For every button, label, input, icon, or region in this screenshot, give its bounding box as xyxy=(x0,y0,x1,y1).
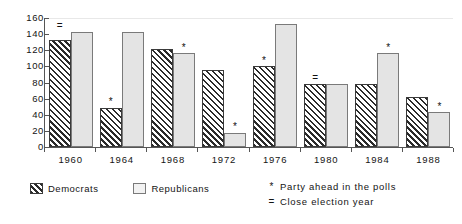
bar-republicans xyxy=(173,53,195,147)
bar-republicans xyxy=(275,24,297,147)
x-tick-label: 1988 xyxy=(398,154,458,165)
bar-democrats xyxy=(151,49,173,147)
note-row-poll-leader: * Party ahead in the polls xyxy=(268,181,396,196)
legend-label-republicans: Republicans xyxy=(151,183,209,194)
bar-democrats xyxy=(49,40,71,147)
bar-democrats xyxy=(304,84,326,147)
bar-democrats xyxy=(253,66,275,147)
bar-group xyxy=(355,18,399,147)
poll-leader-marker: * xyxy=(242,56,286,66)
chart-legend: Democrats Republicans xyxy=(30,183,209,194)
y-tick-label: 60 xyxy=(0,93,44,105)
y-tick-label: 40 xyxy=(0,109,44,121)
x-tick-mark xyxy=(95,148,96,152)
bar-republicans xyxy=(122,32,144,147)
x-tick-mark xyxy=(402,148,403,152)
legend-swatch-republicans xyxy=(133,183,146,194)
bar-group xyxy=(49,18,93,147)
y-tick-label: 80 xyxy=(0,77,44,89)
legend-item-democrats: Democrats xyxy=(30,183,98,194)
x-tick-mark xyxy=(351,148,352,152)
poll-leader-marker: * xyxy=(213,122,257,132)
x-tick-mark xyxy=(44,148,45,152)
bar-republicans xyxy=(326,84,348,147)
x-tick-mark xyxy=(249,148,250,152)
x-tick-mark xyxy=(197,148,198,152)
bar-group xyxy=(253,18,297,147)
y-tick-label: 120 xyxy=(0,44,44,56)
bar-republicans xyxy=(428,112,450,147)
x-tick-mark xyxy=(453,148,454,152)
equals-icon: = xyxy=(268,196,275,207)
poll-leader-marker: * xyxy=(162,43,206,53)
note-row-close-election: = Close election year xyxy=(268,196,396,211)
bar-republicans xyxy=(224,133,246,148)
note-text-poll-leader: Party ahead in the polls xyxy=(280,181,396,192)
bar-group xyxy=(100,18,144,147)
bar-democrats xyxy=(100,108,122,148)
asterisk-icon: * xyxy=(268,181,275,192)
y-tick-mark xyxy=(45,147,49,148)
poll-leader-marker: * xyxy=(417,102,461,112)
x-tick-mark xyxy=(300,148,301,152)
note-text-close-election: Close election year xyxy=(280,196,374,207)
y-tick-label: 0 xyxy=(0,141,44,153)
y-tick-label: 20 xyxy=(0,125,44,137)
bar-group xyxy=(151,18,195,147)
poll-leader-marker: * xyxy=(89,97,133,107)
bar-republicans xyxy=(71,32,93,147)
legend-label-democrats: Democrats xyxy=(48,183,98,194)
poll-leader-marker: * xyxy=(366,43,410,53)
bar-democrats xyxy=(355,84,377,147)
close-election-marker: = xyxy=(293,73,337,83)
legend-item-republicans: Republicans xyxy=(133,183,209,194)
y-tick-label: 100 xyxy=(0,60,44,72)
chart-notes: * Party ahead in the polls = Close elect… xyxy=(268,181,396,211)
bar-republicans xyxy=(377,53,399,147)
bar-chart-figure: 020406080100120140160 =****=** 196019641… xyxy=(0,0,462,224)
close-election-marker: = xyxy=(38,21,82,31)
bar-group xyxy=(406,18,450,147)
x-tick-mark xyxy=(146,148,147,152)
bar-democrats xyxy=(202,70,224,147)
legend-swatch-democrats xyxy=(30,183,43,194)
